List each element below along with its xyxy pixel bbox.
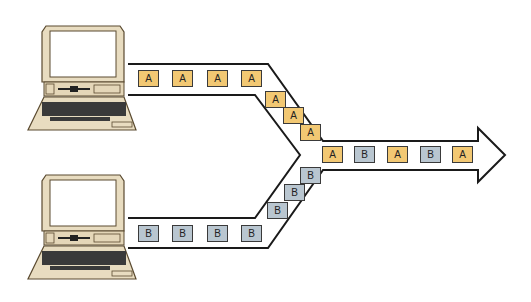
- packet-b: B: [300, 167, 321, 184]
- packet-a: A: [172, 70, 193, 87]
- packet-a: A: [387, 146, 408, 163]
- packet-a: A: [241, 70, 262, 87]
- channel-lines: [128, 64, 505, 248]
- packet-a: A: [300, 124, 321, 141]
- packet-b: B: [420, 146, 441, 163]
- packet-b: B: [284, 184, 305, 201]
- packet-b: B: [354, 146, 375, 163]
- computer-b-icon: [28, 175, 136, 279]
- packet-b: B: [241, 225, 262, 242]
- computer-a-icon: [28, 26, 136, 130]
- packet-a: A: [207, 70, 228, 87]
- packet-b: B: [138, 225, 159, 242]
- packet-a: A: [283, 107, 304, 124]
- packet-b: B: [207, 225, 228, 242]
- packet-a: A: [452, 146, 473, 163]
- packet-a: A: [138, 70, 159, 87]
- packet-b: B: [267, 202, 288, 219]
- packet-a: A: [322, 146, 343, 163]
- packet-a: A: [265, 91, 286, 108]
- packet-b: B: [172, 225, 193, 242]
